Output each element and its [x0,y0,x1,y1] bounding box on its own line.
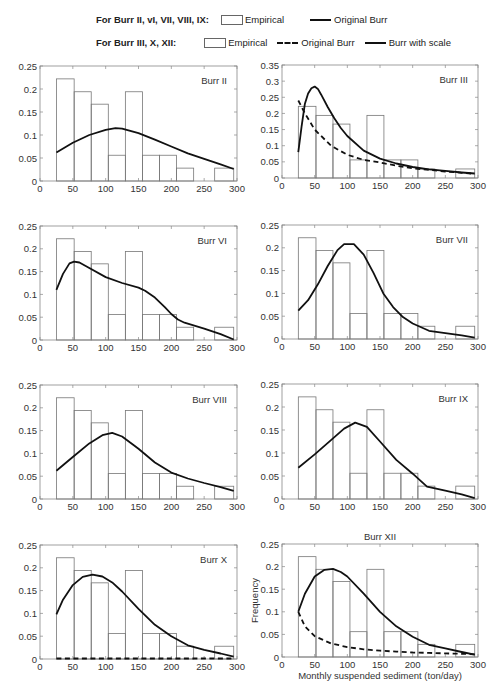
x-tick-label: 200 [405,659,421,670]
x-axis-label: Monthly suspended sediment (ton/day) [298,670,462,681]
y-tick-label: 0 [274,173,279,184]
x-tick-label: 250 [437,501,453,512]
panel-burr-iii: 05010015020025030000.050.10.150.20.250.3… [261,60,486,192]
x-tick-label: 50 [68,183,79,194]
y-tick-label: 0.3 [266,76,279,87]
panel-title: Burr X [200,554,228,565]
panel-title: Burr II [201,75,227,86]
y-tick-label: 0.15 [19,107,38,118]
x-tick-label: 200 [405,180,421,191]
x-tick-label: 150 [372,180,388,191]
y-tick-label: 0.05 [19,631,38,642]
y-tick-label: 0.05 [19,153,38,164]
panel-title: Burr XII [364,531,396,542]
x-tick-label: 100 [98,342,114,353]
panel-title: Burr III [439,74,468,85]
x-tick-label: 50 [68,501,79,512]
y-tick-label: 0.35 [261,60,280,71]
y-tick-label: 0.15 [19,425,38,436]
y-tick-label: 0.05 [261,311,280,322]
x-tick-label: 0 [279,501,284,512]
y-tick-label: 0.15 [19,585,38,596]
y-tick-label: 0.25 [19,61,38,72]
panel-burr-ix: 05010015020025030000.050.10.150.20.25Bur… [261,379,486,513]
x-tick-label: 50 [309,180,320,191]
x-tick-label: 100 [339,501,355,512]
y-tick-label: 0.2 [24,402,37,413]
x-tick-label: 200 [163,342,179,353]
x-tick-label: 100 [98,501,114,512]
panel-title: Burr IX [438,393,468,404]
y-tick-label: 0.15 [261,265,280,276]
y-tick-label: 0.15 [19,266,38,277]
y-tick-label: 0.15 [261,124,280,135]
x-tick-label: 100 [98,661,114,672]
figure-panels: 05010015020025030000.050.10.150.20.25Bur… [0,0,502,689]
y-axis-label: Frequency [249,578,260,623]
panel-burr-xii: 05010015020025030000.050.10.150.20.25Bur… [249,531,486,681]
y-tick-label: 0.1 [24,289,37,300]
y-tick-label: 0.2 [24,243,37,254]
x-tick-label: 50 [309,659,320,670]
y-tick-label: 0.05 [19,312,38,323]
panel-title: Burr VI [197,235,227,246]
x-tick-label: 200 [163,661,179,672]
x-tick-label: 250 [196,183,212,194]
x-tick-label: 50 [68,661,79,672]
y-tick-label: 0.1 [266,448,279,459]
y-tick-label: 0 [32,335,37,346]
y-tick-label: 0 [274,494,279,505]
y-tick-label: 0.1 [24,448,37,459]
y-tick-label: 0 [274,652,279,663]
y-tick-label: 0.2 [24,84,37,95]
y-tick-label: 0.1 [266,288,279,299]
y-tick-label: 0.1 [266,606,279,617]
panel-burr-viii: 05010015020025030000.050.10.150.20.25Bur… [19,380,245,513]
y-tick-label: 0.1 [24,130,37,141]
y-tick-label: 0.2 [266,561,279,572]
x-tick-label: 50 [68,342,79,353]
x-tick-label: 100 [339,341,355,352]
y-tick-label: 0.05 [261,471,280,482]
y-tick-label: 0.15 [261,584,280,595]
panel-burr-vii: 05010015020025030000.050.10.150.20.25Bur… [261,220,486,353]
x-tick-label: 0 [279,341,284,352]
x-tick-label: 0 [37,183,42,194]
x-tick-label: 250 [437,659,453,670]
x-tick-label: 100 [98,183,114,194]
panel-title: Burr VIII [192,394,227,405]
x-tick-label: 300 [229,661,245,672]
y-tick-label: 0.1 [24,608,37,619]
x-tick-label: 250 [196,661,212,672]
panel-title: Burr VII [436,234,468,245]
y-tick-label: 0.2 [24,562,37,573]
y-tick-label: 0.25 [19,380,38,391]
x-tick-label: 0 [37,501,42,512]
x-tick-label: 0 [37,661,42,672]
y-tick-label: 0 [32,176,37,187]
y-tick-label: 0 [32,494,37,505]
x-tick-label: 200 [405,341,421,352]
x-tick-label: 0 [279,180,284,191]
x-tick-label: 300 [470,501,486,512]
panel-burr-ii: 05010015020025030000.050.10.150.20.25Bur… [19,61,245,195]
y-tick-label: 0.25 [19,221,38,232]
x-tick-label: 300 [470,659,486,670]
x-tick-label: 200 [163,501,179,512]
x-tick-label: 100 [339,180,355,191]
y-tick-label: 0.25 [19,540,38,551]
x-tick-label: 50 [309,341,320,352]
y-tick-label: 0 [274,334,279,345]
x-tick-label: 150 [372,341,388,352]
plot-frame [282,544,478,657]
y-tick-label: 0.2 [266,108,279,119]
x-tick-label: 200 [405,501,421,512]
y-tick-label: 0 [32,654,37,665]
x-tick-label: 150 [372,501,388,512]
y-tick-label: 0.15 [261,425,280,436]
x-tick-label: 300 [470,341,486,352]
x-tick-label: 300 [229,342,245,353]
x-tick-label: 100 [339,659,355,670]
y-tick-label: 0.1 [266,140,279,151]
x-tick-label: 150 [131,342,147,353]
